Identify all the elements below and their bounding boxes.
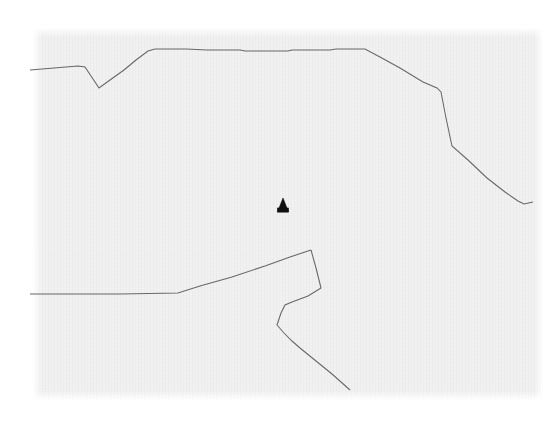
site-marker bbox=[278, 198, 289, 212]
eastern-loop-boundary bbox=[277, 250, 350, 390]
page-canvas bbox=[0, 0, 560, 424]
triangle-base-fill bbox=[278, 208, 289, 212]
western-horizontal-boundary bbox=[30, 250, 311, 294]
northern-boundary-line bbox=[30, 49, 533, 204]
map-drawing bbox=[0, 0, 560, 424]
